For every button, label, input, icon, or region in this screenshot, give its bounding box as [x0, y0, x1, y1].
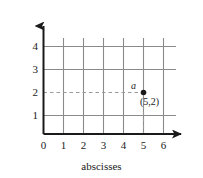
x-tick-label-0: 0 — [37, 140, 51, 151]
x-tick-label-1: 1 — [57, 140, 71, 151]
coordinate-plane-figure: 0 1 2 3 4 5 6 1 2 3 4 abscisses ordonnée… — [0, 0, 203, 178]
x-tick-label-6: 6 — [157, 140, 171, 151]
x-tick-label-4: 4 — [117, 140, 131, 151]
x-tick-label-2: 2 — [77, 140, 91, 151]
y-tick-label-4: 4 — [24, 41, 38, 52]
point-coordinates-label: (5,2) — [140, 96, 159, 107]
x-tick-label-5: 5 — [137, 140, 151, 151]
y-tick-label-1: 1 — [24, 110, 38, 121]
point-name-label: a — [131, 80, 136, 91]
x-tick-label-3: 3 — [97, 140, 111, 151]
vertical-gridlines — [64, 38, 164, 134]
point-guide-lines — [44, 93, 144, 135]
x-axis-title: abscisses — [0, 160, 203, 172]
y-tick-label-3: 3 — [24, 64, 38, 75]
y-tick-label-2: 2 — [24, 87, 38, 98]
data-point-a[interactable] — [141, 90, 147, 96]
